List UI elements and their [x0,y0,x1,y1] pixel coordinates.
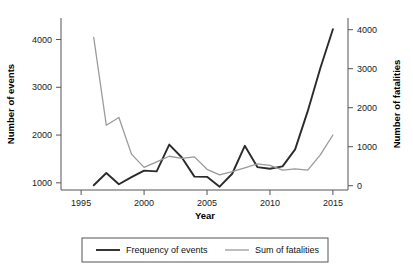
axis-frame [61,18,348,190]
y2-tick-label: 0 [357,181,362,191]
y-tick-label: 1000 [32,178,52,188]
legend-label: Frequency of events [126,245,208,255]
x-axis-label: Year [195,210,215,221]
right-axis-ticks: 01000200030004000 [348,25,377,191]
y2-tick-label: 2000 [357,103,377,113]
y-axis-label: Number of events [5,64,16,144]
line-chart: 1000200030004000 01000200030004000 19952… [0,0,413,273]
series-line [94,29,333,186]
y2-tick-label: 1000 [357,142,377,152]
x-tick-label: 2000 [134,198,154,208]
y2-tick-label: 3000 [357,64,377,74]
x-axis-ticks: 19952000200520102015 [71,190,343,208]
y-tick-label: 3000 [32,82,52,92]
x-tick-label: 2010 [260,198,280,208]
series-line [94,38,333,175]
y2-axis-label: Number of fatalities [391,60,402,149]
y-tick-label: 2000 [32,130,52,140]
y-tick-label: 4000 [32,35,52,45]
chart-legend: Frequency of eventsSum of fatalities [82,238,328,262]
x-tick-label: 2015 [323,198,343,208]
legend-label: Sum of fatalities [255,245,320,255]
data-series-layer [94,29,333,186]
left-axis-ticks: 1000200030004000 [32,35,61,188]
chart-figure: 1000200030004000 01000200030004000 19952… [0,0,413,273]
y2-tick-label: 4000 [357,25,377,35]
x-tick-label: 1995 [71,198,91,208]
x-tick-label: 2005 [197,198,217,208]
